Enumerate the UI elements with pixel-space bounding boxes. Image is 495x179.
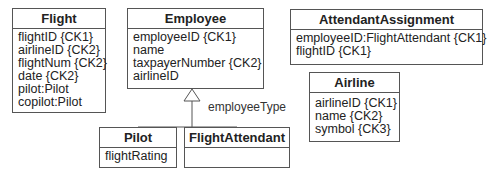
class-flight: Flight flightID {CK1} airlineID {CK2} fl… <box>12 8 106 113</box>
attribute: airlineID <box>133 70 258 83</box>
class-name: Airline <box>310 73 399 93</box>
class-airline: Airline airlineID {CK1} name {CK2} symbo… <box>309 72 400 142</box>
class-name: FlightAttendant <box>185 128 289 148</box>
attribute: symbol {CK3} <box>315 123 394 136</box>
attribute: copilot:Pilot <box>18 96 100 109</box>
class-name: Flight <box>13 9 105 29</box>
class-attributes: airlineID {CK1} name {CK2} symbol {CK3} <box>310 93 399 138</box>
class-name: Employee <box>128 9 263 29</box>
class-attributes: employeeID:FlightAttendant {CK1} flightI… <box>291 30 482 60</box>
class-attributes: flightID {CK1} airlineID {CK2} flightNum… <box>13 29 105 111</box>
discriminator-label: employeeType <box>208 100 286 114</box>
attribute: flightID {CK1} <box>296 45 477 58</box>
class-attributes <box>185 148 289 152</box>
inheritance-triangle-icon <box>184 89 200 101</box>
class-employee: Employee employeeID {CK1} name taxpayerN… <box>127 8 264 89</box>
attribute: flightRating <box>105 150 171 163</box>
class-attendant-assignment: AttendantAssignment employeeID:FlightAtt… <box>290 9 483 65</box>
class-attributes: employeeID {CK1} name taxpayerNumber {CK… <box>128 29 263 85</box>
class-flight-attendant: FlightAttendant <box>184 127 290 168</box>
class-pilot: Pilot flightRating <box>99 127 177 168</box>
class-name: AttendantAssignment <box>291 10 482 30</box>
class-name: Pilot <box>100 128 176 148</box>
class-attributes: flightRating <box>100 148 176 165</box>
